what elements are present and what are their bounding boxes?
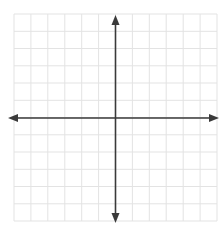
y-axis-arrow-up-icon [112,15,120,25]
y-axis [112,15,120,223]
x-axis-arrow-left-icon [8,114,18,122]
x-axis [8,114,219,122]
coordinate-plane-canvas [0,0,223,229]
coordinate-plane-figure [0,0,223,229]
